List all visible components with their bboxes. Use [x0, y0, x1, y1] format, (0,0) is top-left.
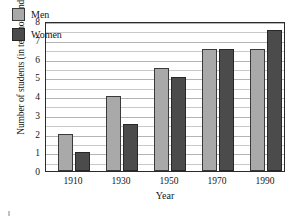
bar-women-1930: [123, 124, 138, 171]
bar-men-1910: [58, 134, 73, 172]
x-axis-title: Year: [45, 190, 285, 201]
scan-artifact: [8, 211, 10, 216]
y-axis-tick-label: 1: [26, 148, 40, 158]
bar-women-1950: [171, 77, 186, 171]
legend-swatch-men-icon: [12, 8, 25, 21]
x-axis-tick-label: 1910: [53, 175, 93, 187]
y-axis-tick-label: 2: [26, 130, 40, 140]
bar-women-1970: [219, 49, 234, 171]
legend-label: Men: [31, 9, 49, 20]
legend-item-men: Men: [12, 6, 96, 22]
legend-label: Women: [31, 29, 62, 40]
bar-men-1930: [106, 96, 121, 171]
bar-men-1970: [202, 49, 217, 171]
y-axis-tick-label: 6: [26, 55, 40, 65]
legend-item-women: Women: [12, 26, 96, 42]
x-axis-tick-label: 1970: [197, 175, 237, 187]
x-axis-tick-label: 1990: [245, 175, 285, 187]
x-axis-tick-labels: 19101930195019701990: [45, 175, 285, 189]
y-axis-tick-label: 4: [26, 92, 40, 102]
x-axis-tick-label: 1950: [149, 175, 189, 187]
legend: MenWomen: [12, 6, 96, 46]
bar-men-1950: [154, 68, 169, 171]
bar-men-1990: [250, 49, 265, 171]
x-axis-tick-label: 1930: [101, 175, 141, 187]
y-axis-tick-label: 0: [26, 167, 40, 177]
y-axis-tick-label: 3: [26, 111, 40, 121]
bar-women-1910: [75, 152, 90, 171]
bar-chart: Number of students (in ten thousands) 01…: [0, 0, 300, 222]
bar-women-1990: [267, 30, 282, 171]
y-axis-tick-label: 5: [26, 73, 40, 83]
legend-swatch-women-icon: [12, 28, 25, 41]
